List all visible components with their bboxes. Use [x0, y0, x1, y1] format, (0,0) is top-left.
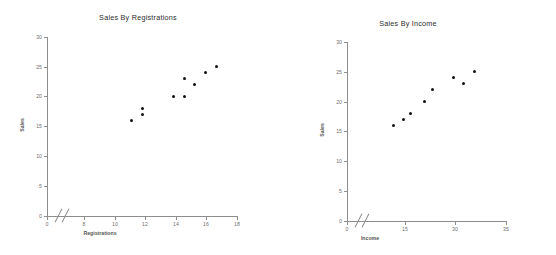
data-point [402, 118, 405, 121]
data-point [141, 107, 144, 110]
y-tick [344, 161, 347, 162]
x-axis-line [47, 216, 238, 217]
data-point [193, 83, 196, 86]
x-tick [145, 217, 146, 220]
data-point [183, 95, 186, 98]
y-tick-label: 5 [24, 183, 42, 189]
y-tick [44, 126, 47, 127]
y-tick-label: 0 [24, 213, 42, 219]
y-tick-label: 10 [324, 158, 342, 164]
y-tick-label: 15 [324, 128, 342, 134]
x-tick [206, 217, 207, 220]
y-tick [344, 42, 347, 43]
x-tick-label: 8 [75, 221, 93, 227]
x-tick-label: 30 [446, 226, 464, 232]
y-tick [44, 186, 47, 187]
x-tick-label: 10 [106, 221, 124, 227]
data-point [431, 88, 434, 91]
y-axis-title: Sales [319, 115, 325, 145]
y-axis-title: Sales [19, 110, 25, 140]
y-tick-label: 10 [24, 153, 42, 159]
x-tick-label: 16 [197, 221, 215, 227]
y-tick [44, 67, 47, 68]
x-tick [237, 217, 238, 220]
data-point [215, 65, 218, 68]
chart-title: Sales By Income [328, 19, 488, 28]
y-tick-label: 5 [324, 188, 342, 194]
x-tick-label: 0 [338, 226, 356, 232]
x-tick [405, 222, 406, 225]
y-tick-label: 20 [324, 99, 342, 105]
y-tick [344, 191, 347, 192]
y-tick [44, 156, 47, 157]
x-tick [47, 217, 48, 220]
x-tick [506, 222, 507, 225]
x-tick-label: 35 [497, 226, 515, 232]
y-tick-label: 25 [324, 69, 342, 75]
y-axis-line [47, 37, 48, 217]
y-tick-label: 25 [24, 64, 42, 70]
y-tick-label: 30 [324, 39, 342, 45]
x-axis-line [347, 221, 507, 222]
x-tick [347, 222, 348, 225]
y-tick-label: 30 [24, 34, 42, 40]
chart-title: Sales By Registrations [53, 13, 223, 22]
y-tick [344, 131, 347, 132]
data-point [183, 77, 186, 80]
data-point [392, 124, 395, 127]
data-point [473, 70, 476, 73]
y-tick [44, 37, 47, 38]
x-tick [176, 217, 177, 220]
x-tick [84, 217, 85, 220]
data-point [423, 100, 426, 103]
y-tick [344, 72, 347, 73]
x-tick [115, 217, 116, 220]
chart-sales-by-registrations: Sales By Registrations 0 5 10 15 20 25 3… [0, 0, 278, 255]
data-point [130, 119, 133, 122]
y-tick-label: 15 [24, 123, 42, 129]
data-point [409, 112, 412, 115]
x-tick-label: 18 [228, 221, 246, 227]
y-tick [344, 102, 347, 103]
x-axis-title: Registrations [45, 230, 155, 236]
chart-sales-by-income: Sales By Income 0 5 10 15 20 25 30 0 15 … [278, 0, 556, 255]
x-axis-title: Income [340, 235, 400, 241]
y-axis-line [347, 42, 348, 222]
y-tick-label: 20 [24, 93, 42, 99]
data-point [462, 82, 465, 85]
x-tick-label: 14 [167, 221, 185, 227]
x-tick-label: 0 [38, 221, 56, 227]
x-tick-label: 12 [136, 221, 154, 227]
y-tick-label: 0 [324, 218, 342, 224]
data-point [452, 76, 455, 79]
data-point [141, 113, 144, 116]
x-tick-label: 15 [396, 226, 414, 232]
y-tick [44, 96, 47, 97]
data-point [204, 71, 207, 74]
x-tick [455, 222, 456, 225]
data-point [172, 95, 175, 98]
